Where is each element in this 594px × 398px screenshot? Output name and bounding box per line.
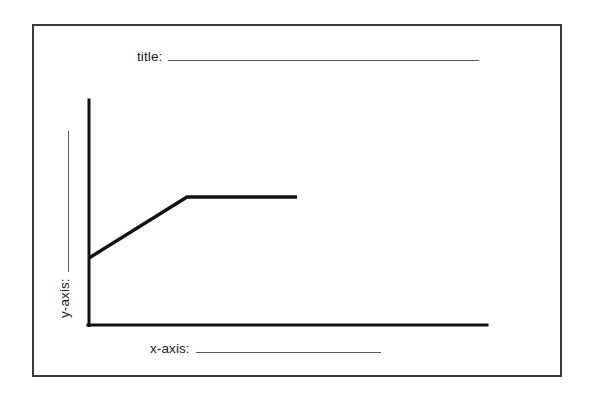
- y-axis-label: y-axis:: [57, 278, 72, 318]
- y-axis-blank-line[interactable]: [68, 131, 69, 272]
- x-axis-field[interactable]: x-axis:: [150, 341, 381, 356]
- x-axis-label: x-axis:: [150, 341, 190, 356]
- y-axis-field[interactable]: y-axis:: [57, 131, 72, 318]
- graph-worksheet: title: y-axis: x-axis:: [0, 0, 594, 398]
- x-axis-blank-line[interactable]: [196, 352, 381, 353]
- data-curve: [89, 197, 297, 258]
- plot-area: [0, 0, 594, 398]
